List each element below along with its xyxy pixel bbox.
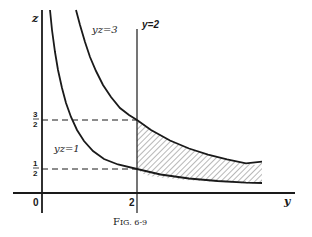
- figure-caption: FIG. 6-9: [113, 216, 147, 227]
- svg-text:3: 3: [33, 110, 38, 119]
- svg-text:2: 2: [33, 120, 38, 129]
- z-tick-one-half: 1 2: [33, 159, 39, 178]
- curve-label-yz-1: yz=1: [53, 143, 80, 154]
- svg-text:1: 1: [33, 159, 38, 168]
- z-tick-three-halves: 3 2: [33, 110, 39, 129]
- svg-text:2: 2: [33, 169, 38, 178]
- figure-canvas: z y 0 2 yz=3 yz=1 y=2 3 2 1 2 FIG. 6-9: [0, 0, 312, 237]
- x-tick-label-2: 2: [129, 197, 135, 208]
- curve-label-yz-3: yz=3: [91, 24, 118, 35]
- origin-label: 0: [33, 197, 39, 208]
- y-axis-label: y: [283, 195, 292, 208]
- vertical-line-label: y=2: [141, 19, 159, 30]
- z-axis-label: z: [31, 12, 39, 25]
